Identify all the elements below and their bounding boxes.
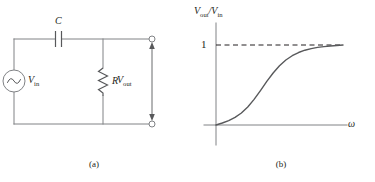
terminal-top xyxy=(149,36,155,42)
panel-a-caption: (a) xyxy=(0,160,188,169)
x-axis-label: ω xyxy=(348,119,355,129)
source-voltage-label: Vin xyxy=(28,75,39,85)
vout-arrowhead-up xyxy=(149,42,155,49)
output-voltage-subscript: out xyxy=(123,80,131,87)
y-axis-label-sub-out: out xyxy=(200,11,208,18)
vout-arrowhead-down xyxy=(149,114,155,121)
y-axis-label: Vout/Vin xyxy=(194,6,223,16)
panel-b-caption: (b) xyxy=(187,160,375,169)
terminal-bottom xyxy=(149,121,155,127)
circuit-panel: C Vin R Vout (a) xyxy=(0,0,188,182)
response-curve-chart xyxy=(187,0,375,182)
vout-measure-arrow xyxy=(149,42,155,121)
y-axis-label-sub-in: in xyxy=(217,11,222,18)
capacitor-symbol xyxy=(56,31,62,47)
y-tick-label-one: 1 xyxy=(201,39,207,50)
graph-panel: Vout/Vin 1 ω (b) xyxy=(187,0,375,182)
source-voltage-subscript: in xyxy=(34,80,39,87)
figure-root: C Vin R Vout (a) Vout/Vin xyxy=(0,0,375,182)
resistor-symbol xyxy=(99,68,108,96)
response-curve xyxy=(216,45,343,125)
ac-source-symbol xyxy=(3,70,25,92)
capacitor-label: C xyxy=(55,16,62,26)
chart-axes xyxy=(204,23,347,145)
output-voltage-label: Vout xyxy=(117,75,132,85)
circuit-schematic xyxy=(0,0,188,182)
